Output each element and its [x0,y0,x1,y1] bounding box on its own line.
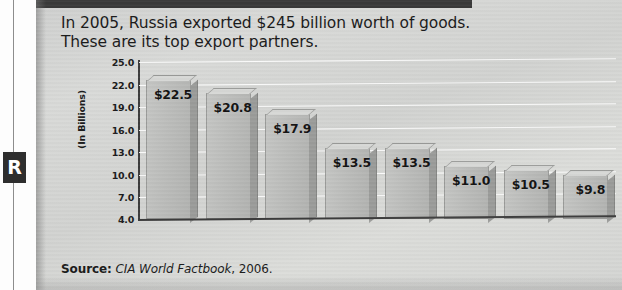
figure-panel: In 2005, Russia exported $245 billion wo… [36,0,622,290]
bar-value-label: $20.8 [208,100,258,115]
bar-value-label: $13.5 [327,155,377,170]
y-axis-tick-label: 25.0 [112,57,134,68]
bar-top-face [564,170,614,176]
page-bottom-shadow [36,276,622,290]
bar-value-label: $9.8 [565,182,615,197]
bar-value-label: $17.9 [267,121,317,136]
figure-headline: In 2005, Russia exported $245 billion wo… [61,14,591,52]
y-axis-tick-label: 13.0 [112,147,134,158]
y-axis-title: (In Billions) [76,61,87,179]
y-axis-tick-label: 7.0 [118,192,134,203]
bar-top-face [445,161,495,167]
page-left-margin: R [0,0,36,290]
gridline [139,58,616,63]
headline-line-2: These are its top export partners. [61,33,591,52]
source-note: Source: CIA World Factbook, 2006. [61,262,273,276]
bar-top-face [386,143,436,149]
bar[interactable]: $22.5 [146,80,191,219]
gridline [139,81,616,86]
y-axis-tick-label: 19.0 [112,102,134,113]
bar-value-label: $22.5 [148,87,198,102]
bar-top-face [147,75,197,81]
bar[interactable]: $13.5 [325,148,370,219]
bar-top-face [207,88,257,94]
bar-value-label: $11.0 [446,173,496,188]
bar-value-label: $13.5 [387,155,437,170]
page-gutter-shadow [36,0,46,290]
bar[interactable]: $17.9 [265,114,310,219]
bar-top-face [266,109,316,115]
bar[interactable]: $13.5 [385,148,430,219]
bar[interactable]: $20.8 [206,93,251,219]
scanned-page: R In 2005, Russia exported $245 billion … [0,0,622,290]
headline-line-1: In 2005, Russia exported $245 billion wo… [61,14,470,32]
bar-chart: (In Billions) 25.022.019.016.013.010.07.… [64,62,616,232]
bar-value-label: $10.5 [506,177,556,192]
section-marker-badge: R [3,152,26,183]
y-axis-tick-label: 16.0 [112,124,134,135]
y-axis-tick-label: 4.0 [118,214,134,225]
margin-rule-line [13,0,14,290]
plot-area: 25.022.019.016.013.010.07.04.0 $22.5Neth… [139,62,616,220]
source-label: Source: [61,262,112,276]
figure-top-bar [36,0,472,8]
y-axis-tick-label: 22.0 [112,79,134,90]
source-publication: CIA World Factbook [115,262,231,276]
bar-top-face [505,165,555,171]
source-year: , 2006. [231,262,272,276]
bar-top-face [326,143,376,149]
y-axis-tick-label: 10.0 [112,169,134,180]
